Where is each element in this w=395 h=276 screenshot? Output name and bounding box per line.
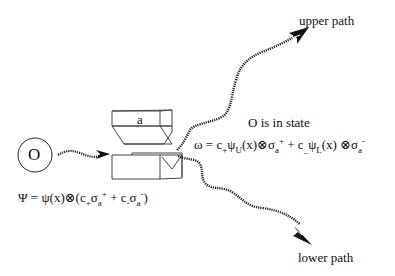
eq-init-sigma2-sub: a bbox=[137, 198, 141, 208]
eq-final-lhs: ω = c bbox=[194, 137, 222, 152]
upper-path-label: upper path bbox=[299, 14, 354, 27]
eq-init-sigma2: σ bbox=[130, 190, 137, 205]
eq-init-lhs: Ψ bbox=[18, 190, 28, 205]
eq-final-plus: + c bbox=[284, 137, 304, 152]
eq-init-sigma1-sub: a bbox=[98, 198, 102, 208]
state-caption: O is in state bbox=[248, 116, 310, 129]
magnet-label: a bbox=[137, 113, 143, 126]
eq-final-sigma2-sup: - bbox=[362, 136, 365, 146]
final-state-equation: ω = c+ψU(x)⊗σa+ + c_ψL(x) ⊗σa- bbox=[194, 138, 365, 151]
upper-path-beam-arrow-icon bbox=[177, 27, 309, 150]
eq-init-body: = ψ(x)⊗(c bbox=[28, 190, 86, 205]
eq-final-mid1: (x)⊗σ bbox=[242, 137, 275, 152]
eq-final-sigma2-sub: a bbox=[358, 145, 362, 155]
lower-path-beam-arrow-icon bbox=[178, 156, 312, 245]
eq-final-mid2: (x) ⊗σ bbox=[322, 137, 358, 152]
incoming-beam-arrow-icon bbox=[58, 150, 110, 159]
eq-final-sigma1-sub: a bbox=[275, 145, 279, 155]
lower-magnet-pole bbox=[112, 153, 182, 179]
initial-state-equation: Ψ = ψ(x)⊗(c+σa+ + c-σa-) bbox=[18, 191, 148, 204]
eq-init-close: ) bbox=[144, 190, 148, 205]
eq-init-plus: + c bbox=[107, 190, 127, 205]
observer-label: O bbox=[28, 146, 40, 163]
eq-init-sigma1: σ bbox=[91, 190, 98, 205]
lower-path-label: lower path bbox=[298, 251, 353, 264]
